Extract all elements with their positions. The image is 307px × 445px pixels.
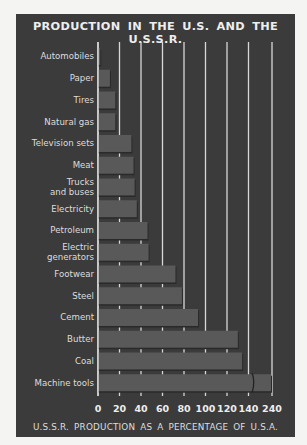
x-tick-label: 120	[217, 403, 237, 414]
bar	[98, 331, 238, 348]
category-label: Butter	[67, 334, 94, 344]
bar	[98, 135, 131, 152]
category-label: Coal	[75, 356, 94, 366]
bar	[98, 200, 137, 217]
category-label: Tires	[73, 95, 95, 105]
bar	[98, 92, 115, 109]
bar	[98, 244, 149, 261]
bar	[98, 353, 242, 370]
category-label: Electricity	[51, 204, 94, 214]
x-tick-label: 140	[239, 403, 259, 414]
chart-panel: PRODUCTION IN THE U.S. AND THE U.S.S.R. …	[16, 14, 295, 437]
bar	[98, 113, 115, 130]
category-label: Paper	[70, 73, 95, 83]
x-tick-label: 100	[196, 403, 216, 414]
category-label: Machine tools	[35, 378, 95, 388]
category-label: Trucks	[66, 177, 95, 187]
category-label: Automobiles	[40, 51, 94, 61]
category-label: Footwear	[54, 269, 94, 279]
x-tick-label: 20	[113, 403, 127, 414]
bar	[98, 287, 182, 304]
category-label: Petroleum	[50, 225, 94, 235]
x-tick-label: 80	[177, 403, 191, 414]
bar-chart: 020406080100120140240AutomobilesPaperTir…	[16, 14, 295, 437]
bar	[98, 179, 135, 196]
category-label: Electric	[62, 242, 94, 252]
bar	[98, 157, 134, 174]
x-tick-label: 60	[156, 403, 170, 414]
bar	[98, 266, 175, 283]
bar	[98, 70, 110, 87]
category-label: generators	[47, 252, 94, 262]
category-label: Natural gas	[44, 117, 94, 127]
category-label: Cement	[60, 312, 94, 322]
category-label: Meat	[73, 160, 95, 170]
category-label: Steel	[72, 291, 94, 301]
bar	[98, 309, 198, 326]
x-tick-label: 240	[262, 403, 282, 414]
bar	[98, 374, 271, 391]
category-label: Television sets	[31, 138, 95, 148]
x-tick-label: 40	[134, 403, 148, 414]
x-axis-label: U.S.S.R. PRODUCTION AS A PERCENTAGE OF U…	[16, 422, 295, 432]
category-label: and buses	[50, 187, 95, 197]
bar	[98, 222, 148, 239]
x-tick-label: 0	[95, 403, 102, 414]
